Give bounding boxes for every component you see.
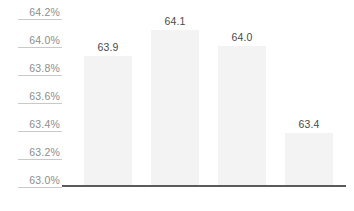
y-axis-tick: 63.4% [0, 119, 62, 132]
y-axis-tick-rule [18, 47, 62, 48]
y-axis-tick-label: 64.0% [29, 35, 60, 46]
y-axis-tick: 63.8% [0, 63, 62, 76]
y-axis-tick: 64.2% [0, 7, 62, 20]
y-axis-tick-label: 64.2% [29, 7, 60, 18]
bar[interactable] [218, 46, 266, 185]
bar[interactable] [151, 30, 199, 185]
y-axis-tick-label: 63.6% [29, 91, 60, 102]
y-axis-tick-rule [18, 103, 62, 104]
bar-value-label: 63.9 [72, 41, 144, 53]
bar-value-label: 64.1 [139, 15, 211, 27]
y-axis-tick: 64.0% [0, 35, 62, 48]
y-axis-tick-rule [18, 75, 62, 76]
bar-value-label: 64.0 [206, 31, 278, 43]
y-axis-tick-label: 63.0% [29, 175, 60, 186]
y-axis-tick-rule [18, 19, 62, 20]
bar[interactable] [285, 133, 333, 185]
bar-value-label: 63.4 [273, 118, 345, 130]
y-axis-tick-rule [18, 159, 62, 160]
y-axis-tick: 63.6% [0, 91, 62, 104]
y-axis-tick-label: 63.4% [29, 119, 60, 130]
bar[interactable] [84, 56, 132, 185]
y-axis: 64.2% 64.0% 63.8% 63.6% 63.4% 63.2% 63.0… [0, 0, 64, 211]
y-axis-tick-rule [18, 187, 62, 188]
y-axis-tick-label: 63.2% [29, 147, 60, 158]
y-axis-tick: 63.0% [0, 175, 62, 188]
plot-area: 63.9 2011 64.1 2012 64.0 2013 63.4 2014 [62, 0, 354, 211]
y-axis-tick: 63.2% [0, 147, 62, 160]
y-axis-tick-rule [18, 131, 62, 132]
x-axis-line [62, 185, 346, 187]
bar-chart: 64.2% 64.0% 63.8% 63.6% 63.4% 63.2% 63.0… [0, 0, 354, 211]
y-axis-tick-label: 63.8% [29, 63, 60, 74]
